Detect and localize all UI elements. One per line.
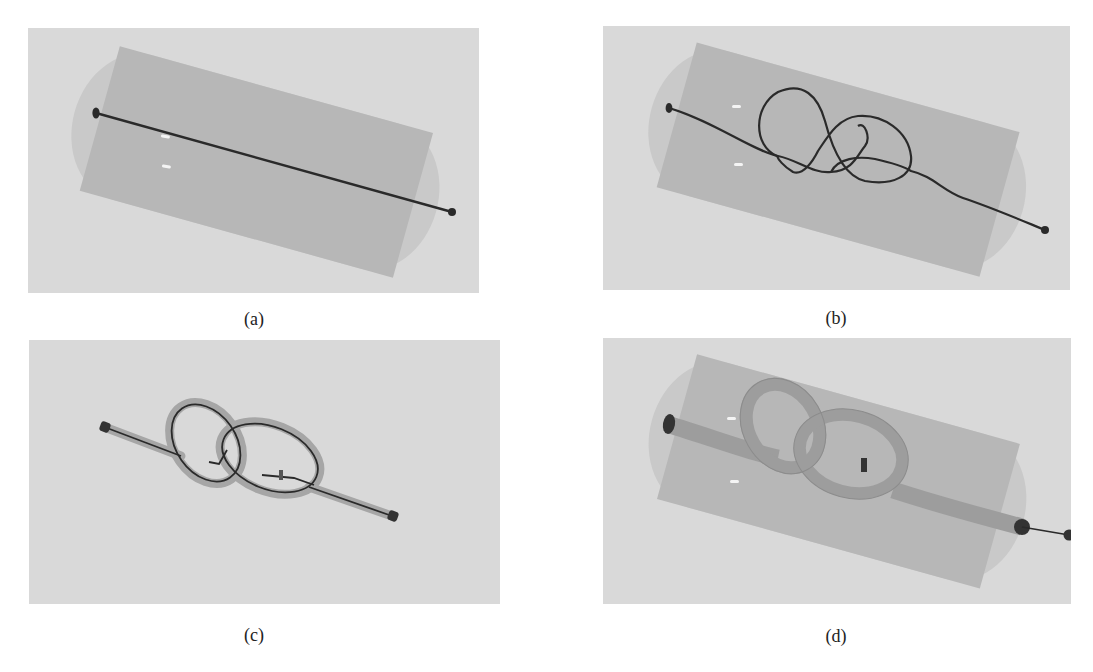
cylinder-thick-tube-knot-illustration bbox=[603, 338, 1071, 604]
panel-a-straight-filament bbox=[28, 28, 479, 293]
caption-b: (b) bbox=[806, 308, 866, 329]
caption-a: (a) bbox=[224, 309, 284, 330]
panel-b-knotted-filament bbox=[603, 26, 1070, 290]
cylinder-straight-filament-illustration bbox=[28, 28, 479, 293]
panel-d-thick-tube-knot bbox=[603, 338, 1071, 604]
panel-c-knot-with-tube bbox=[29, 340, 500, 604]
knot-with-tube-illustration bbox=[29, 340, 500, 604]
caption-c: (c) bbox=[224, 625, 284, 646]
cylinder-knotted-filament-illustration bbox=[603, 26, 1070, 290]
caption-d: (d) bbox=[806, 626, 866, 647]
